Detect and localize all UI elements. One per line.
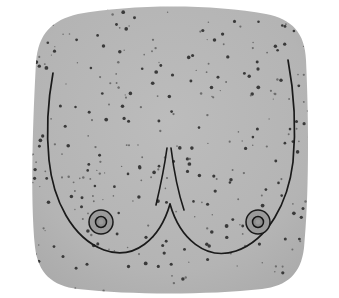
stipple-dot	[74, 287, 76, 289]
stipple-dot	[188, 262, 189, 263]
stipple-dot	[210, 86, 214, 90]
stipple-dot	[161, 244, 164, 247]
stipple-dot	[151, 50, 153, 52]
stipple-dot	[198, 174, 201, 177]
stipple-dot	[121, 105, 125, 109]
stipple-dot	[307, 15, 310, 18]
stipple-dot	[270, 90, 272, 92]
stipple-dot	[33, 177, 36, 180]
stipple-dot	[308, 135, 312, 139]
stipple-dot	[243, 72, 246, 75]
stipple-dot	[288, 98, 290, 100]
left-nipple-center	[99, 220, 104, 225]
stipple-dot	[289, 128, 292, 131]
stipple-dot	[79, 178, 81, 180]
stipple-dot	[138, 165, 141, 168]
stipple-dot	[212, 214, 214, 216]
stipple-dot	[31, 154, 33, 156]
stipple-dot	[188, 162, 192, 166]
stipple-dot	[61, 153, 63, 155]
stipple-dot	[220, 90, 221, 91]
stipple-dot	[280, 194, 283, 197]
stipple-dot	[280, 178, 282, 180]
left-areola	[89, 210, 113, 234]
stipple-dot	[168, 95, 172, 99]
stipple-dot	[90, 67, 93, 70]
stipple-dot	[192, 200, 195, 203]
stipple-dot	[292, 211, 296, 215]
stipple-dot	[152, 39, 154, 41]
female-chest-illustration	[0, 0, 339, 298]
stipple-dot	[217, 76, 220, 79]
stipple-dot	[266, 145, 268, 147]
stipple-dot	[297, 84, 300, 87]
stipple-dot	[295, 120, 298, 123]
stipple-dot	[43, 227, 45, 229]
stipple-dot	[144, 236, 147, 239]
stipple-dot	[47, 200, 51, 204]
stipple-dot	[181, 277, 184, 280]
stipple-dot	[277, 182, 280, 185]
stipple-dot	[143, 54, 145, 56]
stipple-dot	[113, 185, 116, 188]
stipple-dot	[87, 213, 89, 215]
stipple-dot	[126, 144, 128, 146]
stipple-dot	[304, 22, 306, 24]
stipple-dot	[166, 177, 168, 179]
stipple-dot	[117, 212, 120, 215]
stipple-dot	[38, 56, 40, 58]
stipple-dot	[239, 224, 241, 226]
stipple-dot	[206, 71, 208, 73]
stipple-dot	[213, 38, 217, 42]
stipple-dot	[62, 34, 64, 36]
stipple-dot	[67, 176, 69, 178]
stipple-dot	[56, 286, 58, 288]
stipple-dot	[73, 181, 75, 183]
stipple-dot	[178, 146, 182, 150]
stipple-dot	[298, 140, 300, 142]
stipple-dot	[82, 176, 85, 179]
stipple-dot	[102, 44, 105, 47]
stipple-dot	[191, 54, 194, 57]
stipple-dot	[225, 236, 228, 239]
stipple-dot	[65, 83, 66, 84]
stipple-dot	[226, 55, 229, 58]
stipple-dot	[44, 230, 45, 231]
stipple-dot	[93, 200, 95, 202]
stipple-dot	[86, 229, 90, 233]
stipple-dot	[165, 188, 167, 190]
stipple-dot	[196, 70, 197, 71]
stipple-dot	[137, 144, 139, 146]
stipple-dot	[113, 195, 115, 197]
stipple-dot	[52, 24, 54, 26]
stipple-dot	[128, 144, 130, 146]
stipple-dot	[35, 282, 39, 286]
stipple-dot	[223, 43, 225, 45]
stipple-dot	[141, 67, 144, 70]
stipple-dot	[61, 255, 64, 258]
stipple-dot	[274, 271, 276, 273]
stipple-dot	[185, 276, 187, 278]
stipple-dot	[189, 158, 191, 160]
stipple-dot	[237, 265, 238, 266]
stipple-dot	[299, 240, 301, 242]
stipple-dot	[274, 160, 277, 163]
stipple-dot	[98, 154, 101, 157]
stipple-dot	[138, 253, 140, 255]
stipple-dot	[102, 199, 103, 200]
stipple-dot	[201, 202, 203, 204]
stipple-dot	[44, 170, 46, 172]
stipple-dot	[35, 253, 37, 255]
stipple-dot	[206, 227, 208, 229]
stipple-dot	[229, 178, 232, 181]
stipple-dot	[141, 156, 143, 158]
stipple-dot	[64, 125, 67, 128]
stipple-dot	[296, 13, 300, 17]
stipple-dot	[39, 186, 40, 187]
stipple-dot	[39, 17, 43, 21]
stipple-dot	[242, 233, 244, 235]
stipple-dot	[129, 92, 133, 96]
stipple-dot	[124, 27, 128, 31]
stipple-dot	[158, 165, 161, 168]
stipple-dot	[206, 203, 209, 206]
